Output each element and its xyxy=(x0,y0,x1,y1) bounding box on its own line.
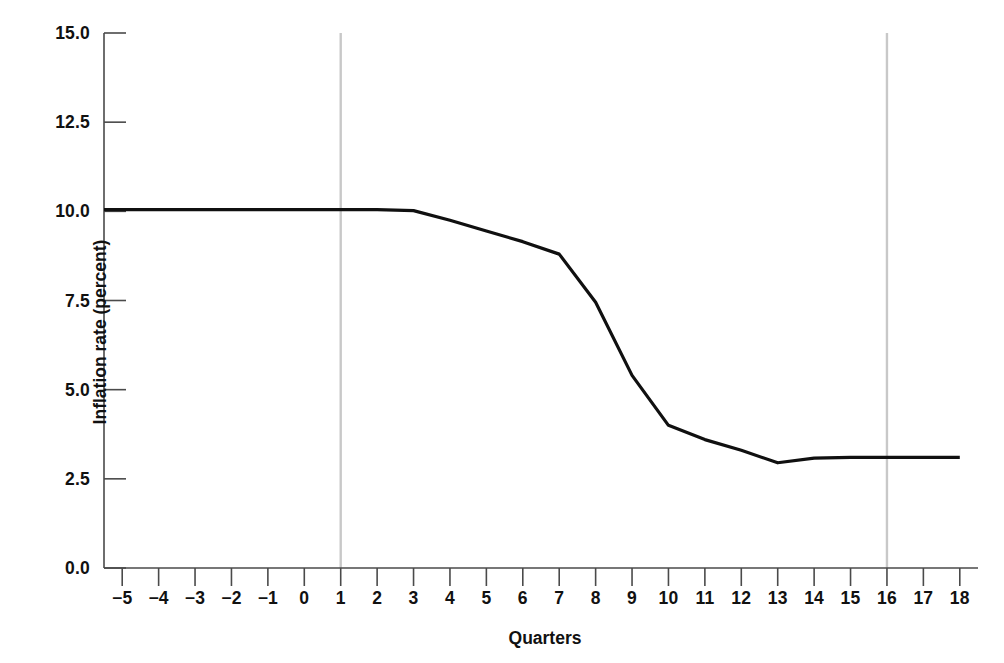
x-tick-label: 6 xyxy=(518,588,528,609)
inflation-rate-chart: 0.02.55.07.510.012.515.0 −5−4−3−2−101234… xyxy=(0,0,1004,663)
x-tick-label: −5 xyxy=(112,588,132,609)
x-tick-label: 7 xyxy=(554,588,564,609)
chart-plot-area xyxy=(0,0,1004,663)
y-tick-label: 15.0 xyxy=(28,23,90,44)
x-tick-label: 9 xyxy=(627,588,637,609)
y-tick-label: 5.0 xyxy=(28,379,90,400)
x-tick-label: 0 xyxy=(299,588,309,609)
x-tick-label: 5 xyxy=(481,588,491,609)
y-tick-label: 10.0 xyxy=(28,201,90,222)
x-tick-label: 10 xyxy=(659,588,679,609)
x-tick-label: 16 xyxy=(877,588,897,609)
x-tick-label: 18 xyxy=(950,588,970,609)
x-tick-label: 17 xyxy=(913,588,933,609)
x-tick-label: 4 xyxy=(445,588,455,609)
vertical-reference-lines xyxy=(341,33,887,568)
x-tick-label: 14 xyxy=(804,588,824,609)
x-tick-label: −3 xyxy=(185,588,205,609)
x-tick-label: 8 xyxy=(591,588,601,609)
x-tick-label: 12 xyxy=(731,588,751,609)
x-tick-label: −1 xyxy=(258,588,278,609)
x-tick-label: 2 xyxy=(372,588,382,609)
axis-tick-marks xyxy=(104,33,960,586)
x-tick-label: 11 xyxy=(695,588,714,609)
x-tick-label: 3 xyxy=(409,588,419,609)
x-tick-label: 15 xyxy=(841,588,861,609)
y-tick-label: 0.0 xyxy=(28,558,90,579)
axis-spines xyxy=(104,33,978,568)
data-series-lines xyxy=(104,210,960,463)
x-tick-label: −4 xyxy=(148,588,168,609)
series-line-inflation-rate xyxy=(104,210,960,463)
y-tick-label: 7.5 xyxy=(28,290,90,311)
x-tick-label: 13 xyxy=(768,588,788,609)
y-tick-label: 12.5 xyxy=(28,112,90,133)
y-axis-title: Inflation rate (percent) xyxy=(90,239,111,424)
x-tick-label: 1 xyxy=(336,588,346,609)
x-tick-label: −2 xyxy=(221,588,241,609)
y-tick-label: 2.5 xyxy=(28,468,90,489)
x-axis-title: Quarters xyxy=(509,628,582,649)
